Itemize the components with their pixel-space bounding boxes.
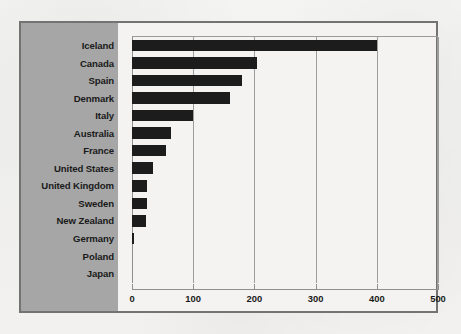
bar-denmark <box>132 92 230 104</box>
bar-row <box>132 37 438 55</box>
bar-series <box>132 37 438 283</box>
bar-row <box>132 72 438 90</box>
category-label-italy: Italy <box>21 107 114 125</box>
x-tick-300 <box>316 284 317 290</box>
x-tick-200 <box>254 284 255 290</box>
page-background: Iceland Canada Spain Denmark Italy Austr… <box>0 0 461 334</box>
bar-row <box>132 125 438 143</box>
x-tick-label-400: 400 <box>369 293 385 304</box>
bar-australia <box>132 127 171 139</box>
x-tick-100 <box>193 284 194 290</box>
bar-row <box>132 90 438 108</box>
bar-row <box>132 160 438 178</box>
x-tick-400 <box>377 284 378 290</box>
x-tick-label-300: 300 <box>308 293 324 304</box>
x-tick-500 <box>438 284 439 290</box>
category-label-iceland: Iceland <box>21 37 114 55</box>
category-label-france: France <box>21 142 114 160</box>
bar-spain <box>132 75 242 87</box>
x-axis-line <box>132 289 438 290</box>
bar-united-states <box>132 162 153 174</box>
x-tick-label-0: 0 <box>129 293 134 304</box>
bar-germany <box>132 233 134 245</box>
bar-france <box>132 145 166 157</box>
category-label-australia: Australia <box>21 125 114 143</box>
plot-area <box>132 37 438 283</box>
bar-iceland <box>132 40 377 52</box>
category-label-sweden: Sweden <box>21 195 114 213</box>
bar-italy <box>132 110 193 122</box>
x-tick-label-100: 100 <box>185 293 201 304</box>
bar-row <box>132 212 438 230</box>
bar-row <box>132 107 438 125</box>
x-tick-label-200: 200 <box>247 293 263 304</box>
bar-new-zealand <box>132 215 146 227</box>
bar-united-kingdom <box>132 180 147 192</box>
x-tick-label-500: 500 <box>430 293 446 304</box>
bar-row <box>132 248 438 266</box>
category-label-germany: Germany <box>21 230 114 248</box>
bar-row <box>132 265 438 283</box>
category-axis: Iceland Canada Spain Denmark Italy Austr… <box>21 37 114 283</box>
bar-row <box>132 55 438 73</box>
bar-row <box>132 142 438 160</box>
category-label-canada: Canada <box>21 55 114 73</box>
gridline-500 <box>438 37 439 283</box>
bar-row <box>132 230 438 248</box>
category-label-new-zealand: New Zealand <box>21 212 114 230</box>
chart-figure-frame: Iceland Canada Spain Denmark Italy Austr… <box>19 21 438 313</box>
x-tick-0 <box>132 284 133 290</box>
category-label-united-kingdom: United Kingdom <box>21 177 114 195</box>
category-label-denmark: Denmark <box>21 90 114 108</box>
bar-row <box>132 177 438 195</box>
category-label-spain: Spain <box>21 72 114 90</box>
category-label-united-states: United States <box>21 160 114 178</box>
bar-row <box>132 195 438 213</box>
bar-sweden <box>132 198 147 210</box>
category-label-japan: Japan <box>21 265 114 283</box>
bar-canada <box>132 57 257 69</box>
category-label-poland: Poland <box>21 248 114 266</box>
